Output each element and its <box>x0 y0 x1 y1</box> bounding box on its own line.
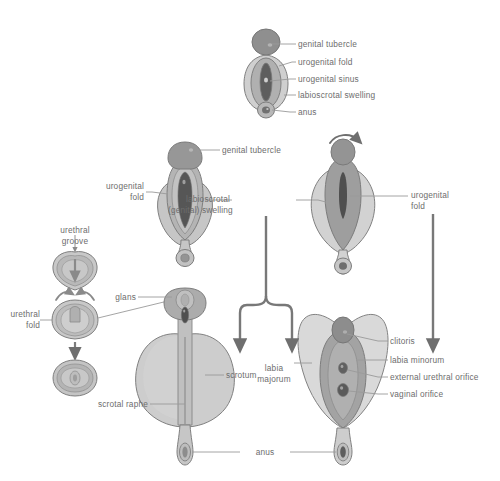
label-labia-minorum: labia minorum <box>390 355 444 366</box>
label-glans: glans <box>98 292 136 303</box>
label-scrotum: scrotum <box>226 370 257 381</box>
anus-opening <box>340 446 346 458</box>
anus-opening <box>262 106 270 113</box>
anus-opening <box>182 447 187 458</box>
label-urogenital-sinus-top: urogenital sinus <box>298 74 359 85</box>
label-anus-bottom: anus <box>245 447 285 458</box>
urethral-meatus-highlight <box>183 310 185 313</box>
diagram-root: genital tubercle urogenital fold urogeni… <box>0 0 500 481</box>
urethral-orifice-highlight <box>341 365 344 368</box>
fold-fusion-arrow-right <box>79 292 94 300</box>
female-pathway-figure <box>296 135 408 274</box>
vaginal-orifice-shape <box>338 384 349 397</box>
leader-anus-top <box>272 110 296 112</box>
label-labioscrotal-genital-swelling: labioscrotal (genital) swelling <box>168 194 230 215</box>
label-scrotal-raphe: scrotal raphe <box>84 399 148 410</box>
clitoris-shape <box>332 317 354 343</box>
label-genital-tubercle-mid: genital tubercle <box>222 145 281 156</box>
male-mature-figure <box>136 288 240 465</box>
label-genital-tubercle-top: genital tubercle <box>298 39 357 50</box>
urethra-lumen-core <box>73 375 77 382</box>
label-labia-majorum: labia majorum <box>254 363 294 384</box>
genital-tubercle-shape <box>331 139 355 165</box>
external-urethral-orifice-shape <box>339 363 348 374</box>
urethral-fold-shape <box>70 307 80 323</box>
genital-tubercle-highlight <box>189 148 193 151</box>
glans-corona <box>181 294 189 306</box>
vaginal-orifice-highlight <box>340 386 343 390</box>
urogenital-sinus-opening <box>182 180 185 184</box>
label-urogenital-fold-left: urogenital fold <box>86 181 144 202</box>
label-anus-top: anus <box>298 107 317 118</box>
genital-tubercle-highlight <box>268 43 273 47</box>
clitoris-highlight <box>343 330 347 333</box>
label-urogenital-fold-top: urogenital fold <box>298 57 353 68</box>
anus-highlight <box>266 108 268 110</box>
label-urethral-groove: urethral groove <box>50 225 100 246</box>
label-urethral-fold: urethral fold <box>0 309 40 330</box>
anus-opening <box>339 262 347 270</box>
female-mature-figure <box>290 314 388 465</box>
fold-fusion-arrow-left <box>56 292 71 300</box>
anus-opening <box>181 254 189 262</box>
urethral-meatus <box>181 307 188 323</box>
urogenital-sinus-opening <box>264 77 268 82</box>
fork-branch-male <box>240 296 266 346</box>
genital-tubercle-shape <box>168 142 202 169</box>
label-labioscrotal-swelling-top: labioscrotal swelling <box>298 90 375 101</box>
indifferent-stage-figure <box>244 29 296 118</box>
fork-branch-female <box>266 296 292 346</box>
label-urogenital-fold-right: urogenital fold <box>411 190 449 211</box>
leader-cross-section-to-male <box>98 300 172 318</box>
label-clitoris: clitoris <box>390 336 415 347</box>
label-external-urethral-orifice: external urethral orifice <box>390 372 479 383</box>
label-vaginal-orifice: vaginal orifice <box>390 389 443 400</box>
genital-tubercle-shape <box>252 29 280 55</box>
